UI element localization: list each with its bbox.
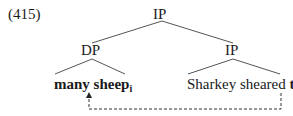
example-number: (415)	[8, 6, 41, 22]
trace: t	[289, 76, 293, 92]
branch-ip-right	[233, 59, 280, 74]
branch-dp-right	[92, 59, 125, 74]
branch-dp-left	[55, 59, 92, 74]
node-ip: IP	[225, 42, 238, 58]
syntax-tree-diagram: (415) IP DP IP many sheepi Sharkey shear…	[0, 0, 293, 116]
branch-ip-dp	[92, 21, 162, 43]
leaf-text: Sharkey sheared	[187, 76, 289, 92]
branch-ip-left	[188, 59, 233, 74]
branch-ip-ip	[162, 21, 233, 43]
leaf-text: many sheep	[54, 76, 129, 92]
leaf-many-sheep: many sheepi	[54, 76, 132, 97]
leaf-sharkey-sheared: Sharkey sheared ti	[187, 76, 293, 97]
index-subscript: i	[129, 83, 132, 94]
node-dp: DP	[81, 42, 100, 58]
tree-lines	[0, 0, 293, 116]
node-root-ip: IP	[153, 6, 166, 22]
